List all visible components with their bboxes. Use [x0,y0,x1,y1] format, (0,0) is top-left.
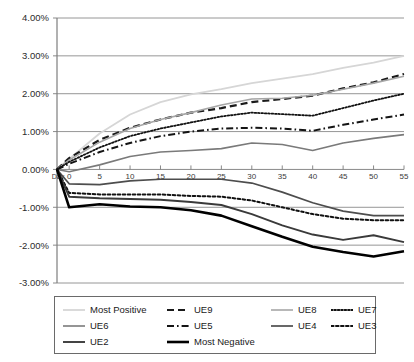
series-line-ue9 [57,74,404,169]
legend-label: Most Positive [90,305,147,315]
legend-swatch-icon [271,305,293,315]
y-axis-tick-label: 0.00% [22,164,49,175]
y-axis-tick-label: -1.00% [19,202,50,213]
legend-swatch-icon [63,337,85,347]
legend-item-ue2[interactable]: UE2 [63,334,167,350]
legend-item-most-positive[interactable]: Most Positive [63,302,167,318]
legend-label: UE4 [298,321,316,331]
legend-swatch-icon [167,337,189,347]
legend-item-ue9[interactable]: UE9 [167,302,271,318]
x-axis-tick-label: 55 [400,172,409,181]
y-axis-tick-label: 3.00% [22,50,49,61]
line-chart-svg: 4.00%3.00%2.00%1.00%0.00%-1.00%-2.00%-3.… [0,0,414,292]
legend-item-most-negative[interactable]: Most Negative [167,334,271,350]
chart-figure: 4.00%3.00%2.00%1.00%0.00%-1.00%-2.00%-3.… [0,0,414,362]
legend-label: Most Negative [194,337,255,347]
legend-item-ue7[interactable]: UE7 [331,302,385,318]
y-axis-tick-label: 1.00% [22,126,49,137]
y-axis-tick-label: -2.00% [19,240,50,251]
x-axis-tick-label: 0 [67,172,72,181]
plot-area: 4.00%3.00%2.00%1.00%0.00%-1.00%-2.00%-3.… [0,0,414,292]
legend-label: UE2 [90,337,108,347]
x-axis-tick-label: 45 [339,172,348,181]
series-line-ue8 [57,76,404,169]
legend-swatch-icon [63,305,85,315]
legend-item-ue6[interactable]: UE6 [63,318,167,334]
legend-swatch-icon [331,321,353,331]
legend-label: UE9 [194,305,212,315]
legend-grid: Most PositiveUE9UE8UE7UE6UE5UE4UE3UE2Mos… [63,302,369,350]
legend-swatch-icon [271,321,293,331]
x-axis-tick-label: 30 [247,172,256,181]
x-axis-tick-label: 35 [278,172,287,181]
series-line-ue6 [57,135,404,172]
legend-label: UE6 [90,321,108,331]
legend-swatch-icon [63,321,85,331]
chart-legend: Most PositiveUE9UE8UE7UE6UE5UE4UE3UE2Mos… [54,296,376,354]
x-axis-tick-label: 40 [308,172,317,181]
legend-label: UE3 [358,321,376,331]
legend-label: UE5 [194,321,212,331]
y-axis-tick-label: 2.00% [22,88,49,99]
series-line-most-positive [57,56,404,170]
legend-label: UE7 [358,305,376,315]
legend-item-ue4[interactable]: UE4 [271,318,331,334]
y-axis-tick-label: 4.00% [22,12,49,23]
legend-item-ue3[interactable]: UE3 [331,318,385,334]
legend-swatch-icon [167,305,189,315]
y-axis-tick-label: -3.00% [19,277,50,288]
legend-swatch-icon [331,305,353,315]
x-axis-tick-label: 5 [97,172,102,181]
legend-item-ue5[interactable]: UE5 [167,318,271,334]
legend-swatch-icon [167,321,189,331]
legend-label: UE8 [298,305,316,315]
x-axis-tick-label: 50 [369,172,378,181]
legend-item-ue8[interactable]: UE8 [271,302,331,318]
